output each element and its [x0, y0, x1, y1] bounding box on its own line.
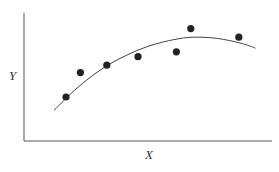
- plot-area: [54, 25, 256, 110]
- data-point: [134, 53, 141, 60]
- scatter-chart: Y X: [0, 0, 279, 172]
- x-axis-label: X: [144, 147, 154, 162]
- data-point: [62, 93, 69, 100]
- data-point: [103, 62, 110, 69]
- data-point: [77, 69, 84, 76]
- data-point: [173, 48, 180, 55]
- data-point: [187, 25, 194, 32]
- y-axis-label: Y: [9, 68, 18, 83]
- fitted-curve: [54, 37, 256, 110]
- data-point: [235, 34, 242, 41]
